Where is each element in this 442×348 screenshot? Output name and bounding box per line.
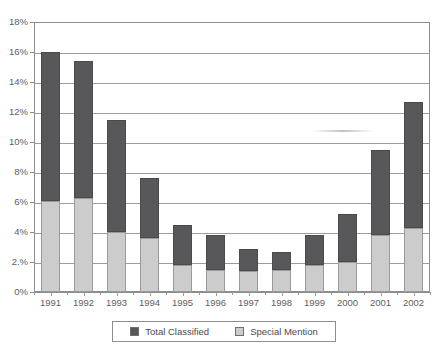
y-axis-tick-label: 6% (0, 197, 28, 207)
x-axis-tick (414, 292, 415, 296)
bar-segment-special-mention[interactable] (272, 270, 291, 293)
x-axis-tick (150, 292, 151, 296)
legend-label: Total Classified (145, 326, 209, 337)
x-axis-tick-label: 1997 (232, 297, 265, 309)
x-axis-tick (282, 292, 283, 296)
bar-group[interactable] (41, 22, 60, 292)
bar-segment-special-mention[interactable] (371, 235, 390, 292)
x-axis-minor-tick (364, 292, 365, 295)
x-axis-minor-tick (430, 292, 431, 295)
x-axis-minor-tick (166, 292, 167, 295)
bar-group[interactable] (140, 22, 159, 292)
bar-segment-total-classified[interactable] (173, 225, 192, 266)
y-axis-tick-label: 4% (0, 227, 28, 237)
y-axis-tick-label: 2.% (0, 257, 28, 267)
bar-segment-total-classified[interactable] (338, 214, 357, 262)
bar-segment-total-classified[interactable] (371, 150, 390, 236)
x-axis-minor-tick (397, 292, 398, 295)
bar-segment-special-mention[interactable] (338, 262, 357, 292)
bar-segment-special-mention[interactable] (404, 228, 423, 293)
x-axis-tick (348, 292, 349, 296)
legend-label: Special Mention (250, 326, 318, 337)
x-axis-minor-tick (331, 292, 332, 295)
bar-group[interactable] (173, 22, 192, 292)
x-axis-tick (249, 292, 250, 296)
x-axis-tick (315, 292, 316, 296)
x-axis-tick-label: 1992 (67, 297, 100, 309)
bar-segment-special-mention[interactable] (107, 232, 126, 292)
bar-group[interactable] (338, 22, 357, 292)
x-axis-tick-label: 1996 (199, 297, 232, 309)
legend-item[interactable]: Total Classified (130, 326, 209, 337)
x-axis-tick-label: 1998 (265, 297, 298, 309)
bar-group[interactable] (305, 22, 324, 292)
legend-item[interactable]: Special Mention (235, 326, 318, 337)
bar-segment-special-mention[interactable] (239, 271, 258, 292)
stacked-bar-chart: 0%2.%4%6%8%10%12%14%16%18% 1991199219931… (0, 0, 442, 348)
x-axis-tick-label: 1999 (298, 297, 331, 309)
x-axis-tick (216, 292, 217, 296)
bar-segment-total-classified[interactable] (41, 52, 60, 201)
y-axis-tick-label: 18% (0, 17, 28, 27)
y-axis-tick-label: 12% (0, 107, 28, 117)
x-axis-minor-tick (265, 292, 266, 295)
bar-segment-special-mention[interactable] (41, 201, 60, 293)
x-axis-minor-tick (232, 292, 233, 295)
x-axis-minor-tick (133, 292, 134, 295)
bar-segment-total-classified[interactable] (74, 61, 93, 198)
legend-swatch-total (130, 327, 139, 336)
bars-layer (34, 22, 430, 292)
bar-group[interactable] (206, 22, 225, 292)
bar-segment-total-classified[interactable] (206, 235, 225, 270)
x-axis-tick (117, 292, 118, 296)
bar-segment-total-classified[interactable] (305, 235, 324, 265)
x-axis-tick (84, 292, 85, 296)
bar-segment-special-mention[interactable] (140, 238, 159, 292)
x-axis-tick-label: 2000 (331, 297, 364, 309)
x-axis-tick (381, 292, 382, 296)
x-axis-tick-label: 1995 (166, 297, 199, 309)
bar-group[interactable] (74, 22, 93, 292)
bar-segment-total-classified[interactable] (140, 178, 159, 238)
bar-group[interactable] (107, 22, 126, 292)
x-axis-tick (183, 292, 184, 296)
scan-artifact (312, 130, 374, 132)
y-axis-tick-label: 0% (0, 287, 28, 297)
bar-group[interactable] (272, 22, 291, 292)
chart-legend: Total ClassifiedSpecial Mention (112, 321, 336, 342)
x-axis-tick-label: 2001 (364, 297, 397, 309)
x-axis-minor-tick (67, 292, 68, 295)
bar-group[interactable] (404, 22, 423, 292)
y-axis-tick-label: 10% (0, 137, 28, 147)
x-axis-tick (51, 292, 52, 296)
x-axis-tick-label: 1994 (133, 297, 166, 309)
x-axis-tick-label: 2002 (397, 297, 430, 309)
chart-title (70, 0, 390, 5)
x-axis-minor-tick (298, 292, 299, 295)
x-axis-minor-tick (199, 292, 200, 295)
x-axis-minor-tick (34, 292, 35, 295)
x-axis-tick-label: 1991 (34, 297, 67, 309)
bar-segment-total-classified[interactable] (239, 249, 258, 272)
bar-segment-total-classified[interactable] (404, 102, 423, 228)
bar-segment-special-mention[interactable] (305, 265, 324, 292)
bar-segment-special-mention[interactable] (74, 198, 93, 293)
bar-segment-total-classified[interactable] (272, 252, 291, 270)
x-axis-tick-label: 1993 (100, 297, 133, 309)
bar-group[interactable] (239, 22, 258, 292)
x-axis-minor-tick (100, 292, 101, 295)
y-axis-tick-label: 8% (0, 167, 28, 177)
bar-segment-total-classified[interactable] (107, 120, 126, 233)
bar-group[interactable] (371, 22, 390, 292)
legend-swatch-special (235, 327, 244, 336)
bar-segment-special-mention[interactable] (173, 265, 192, 292)
bar-segment-special-mention[interactable] (206, 270, 225, 293)
y-axis-tick-label: 14% (0, 77, 28, 87)
y-axis-tick-label: 16% (0, 47, 28, 57)
